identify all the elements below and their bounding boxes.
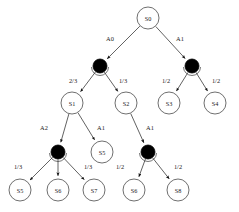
edge-label-e-s1-s5: A1 bbox=[97, 124, 105, 131]
edge-e-c3-l3 bbox=[63, 157, 84, 179]
edge-e-c2-s3 bbox=[176, 72, 188, 91]
edge-label-e-c4-l5: 1/2 bbox=[174, 163, 182, 170]
edge-label-e-c2-s3: 1/2 bbox=[162, 77, 170, 84]
state-node-label: S4 bbox=[212, 100, 219, 107]
edge-e-c1-s1 bbox=[81, 72, 96, 92]
edge-e-c3-l1 bbox=[30, 157, 53, 180]
state-node-label: S3 bbox=[166, 100, 173, 107]
edge-e-c2-s4 bbox=[196, 72, 208, 91]
edge-e-c4-l4 bbox=[139, 159, 145, 177]
edge-e-s1-s5 bbox=[78, 113, 95, 140]
nodes-layer: S0S1S2S3S4S5S5S6S7S6S8 bbox=[9, 7, 226, 201]
state-node-label: S8 bbox=[175, 187, 182, 194]
edge-label-e-c1-s2: 1/3 bbox=[119, 77, 127, 84]
state-node-label: S1 bbox=[69, 100, 76, 107]
edge-label-e-c3-l1: 1/3 bbox=[14, 163, 22, 170]
edge-e-s2-c4 bbox=[131, 113, 144, 142]
state-node-label: S7 bbox=[91, 187, 98, 194]
state-node-s4[interactable]: S4 bbox=[204, 92, 226, 114]
state-node-label: S0 bbox=[145, 15, 152, 22]
chance-node-c4[interactable] bbox=[141, 145, 155, 159]
state-node-label: S6 bbox=[131, 187, 138, 194]
edge-label-e-s2-c4: A1 bbox=[146, 124, 154, 131]
state-node-label: S5 bbox=[17, 187, 24, 194]
edge-e-s0-c2 bbox=[156, 26, 185, 58]
state-node-s3[interactable]: S3 bbox=[158, 92, 180, 114]
state-node-s2[interactable]: S2 bbox=[115, 92, 137, 114]
edge-e-s0-c1 bbox=[107, 26, 140, 59]
edge-e-c1-s2 bbox=[104, 72, 118, 91]
state-node-l2[interactable]: S6 bbox=[47, 179, 69, 201]
edge-e-c4-l5 bbox=[153, 158, 170, 179]
chance-node-c3[interactable] bbox=[51, 145, 65, 159]
state-node-s0[interactable]: S0 bbox=[137, 7, 159, 29]
state-node-l4[interactable]: S6 bbox=[123, 179, 145, 201]
edge-label-e-s0-c1: A0 bbox=[106, 35, 114, 42]
state-node-l5[interactable]: S8 bbox=[167, 179, 189, 201]
state-node-label: S2 bbox=[123, 100, 130, 107]
state-node-l3[interactable]: S7 bbox=[83, 179, 105, 201]
game-tree-diagram: S0S1S2S3S4S5S5S6S7S6S8 A0A12/31/31/21/2A… bbox=[0, 0, 239, 212]
state-node-s1[interactable]: S1 bbox=[61, 92, 83, 114]
edge-label-e-s0-c2: A1 bbox=[176, 35, 184, 42]
state-node-l1[interactable]: S5 bbox=[9, 179, 31, 201]
state-node-label: S5 bbox=[99, 149, 106, 156]
edge-label-e-c1-s1: 2/3 bbox=[69, 77, 77, 84]
edge-label-e-c3-l3: 1/3 bbox=[84, 163, 92, 170]
edge-label-e-c2-s4: 1/2 bbox=[212, 77, 220, 84]
chance-node-c2[interactable] bbox=[185, 59, 199, 73]
chance-node-c1[interactable] bbox=[93, 59, 107, 73]
edge-label-e-c4-l4: 1/2 bbox=[116, 163, 124, 170]
state-node-label: S6 bbox=[55, 187, 62, 194]
state-node-s5mid[interactable]: S5 bbox=[91, 141, 113, 163]
edge-e-s1-c3 bbox=[61, 114, 69, 142]
edge-label-e-s1-c3: A2 bbox=[40, 124, 48, 131]
